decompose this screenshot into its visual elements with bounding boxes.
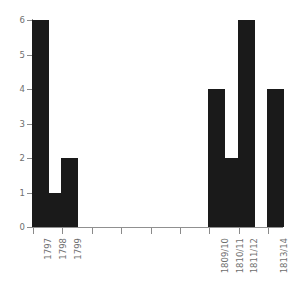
x-axis-tick [121, 228, 122, 234]
x-axis-tick [62, 228, 63, 234]
bar-chart: 0123456 1797179817991809/101810/111811/1… [0, 0, 308, 289]
x-axis-tick-label: 1797 [44, 238, 53, 260]
bar [238, 20, 255, 227]
x-axis-tick-label: 1811/12 [250, 238, 259, 273]
x-axis-line [32, 227, 283, 228]
x-axis-tick-label: 1798 [59, 238, 68, 260]
y-axis-tick-label: 5 [0, 51, 25, 60]
x-axis-tick [92, 228, 93, 234]
bar [61, 158, 78, 227]
y-axis-tick-label: 3 [0, 120, 25, 129]
x-axis-tick [268, 228, 269, 234]
x-axis-tick-label: 1799 [74, 238, 83, 260]
x-axis-tick-label: 1809/10 [221, 238, 230, 273]
x-axis-tick [239, 228, 240, 234]
bar [267, 89, 284, 227]
x-axis-tick-label: 1810/11 [236, 238, 245, 273]
y-axis-tick-label: 2 [0, 154, 25, 163]
y-axis-tick-label: 6 [0, 16, 25, 25]
y-axis-tick-label: 0 [0, 223, 25, 232]
x-axis-tick [209, 228, 210, 234]
x-axis-tick-label: 1813/14 [280, 238, 289, 273]
x-axis-tick [151, 228, 152, 234]
bars-layer [33, 20, 283, 227]
x-axis-tick [180, 228, 181, 234]
y-axis-tick-label: 1 [0, 189, 25, 198]
x-axis-tick [33, 228, 34, 234]
y-axis-tick-label: 4 [0, 85, 25, 94]
